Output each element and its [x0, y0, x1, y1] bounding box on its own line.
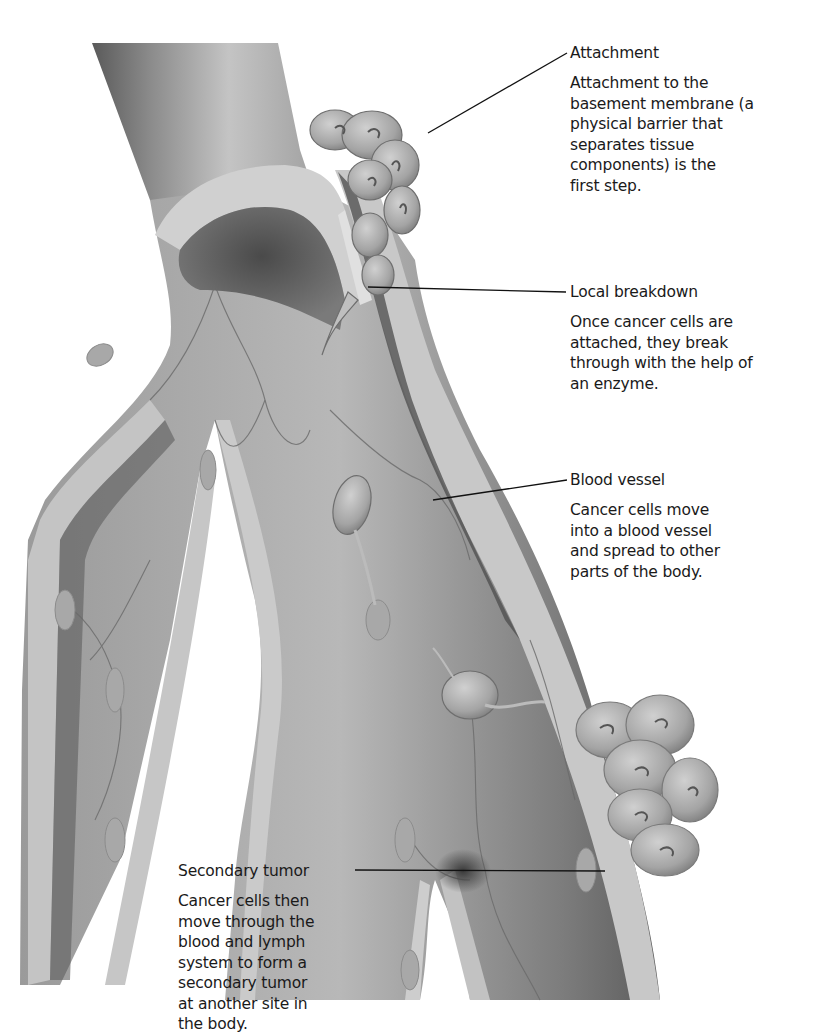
- label-blood-vessel: Blood vessel Cancer cells move into a bl…: [570, 470, 810, 582]
- label-attachment: Attachment Attachment to the basement me…: [570, 43, 810, 196]
- label-description: Once cancer cells are attached, they bre…: [570, 312, 810, 394]
- label-description: Cancer cells then move through the blood…: [178, 891, 348, 1035]
- label-title: Local breakdown: [570, 282, 810, 302]
- label-title: Attachment: [570, 43, 810, 63]
- label-title: Secondary tumor: [178, 861, 348, 881]
- label-description: Attachment to the basement membrane (a p…: [570, 73, 810, 196]
- label-description: Cancer cells move into a blood vessel an…: [570, 500, 810, 582]
- label-local-breakdown: Local breakdown Once cancer cells are at…: [570, 282, 810, 394]
- label-title: Blood vessel: [570, 470, 810, 490]
- leader-line-attachment: [428, 53, 567, 133]
- label-secondary-tumor: Secondary tumor Cancer cells then move t…: [178, 861, 348, 1035]
